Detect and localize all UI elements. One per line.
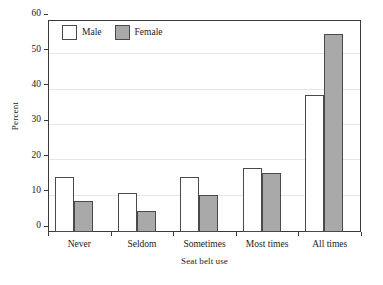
y-axis-tick: 50 <box>32 43 49 55</box>
bars-layer <box>48 20 361 232</box>
x-axis-title: Seat belt use <box>48 256 361 266</box>
bar-female <box>324 34 343 232</box>
bar-group <box>236 20 299 232</box>
x-axis-category-label: Never <box>68 237 91 251</box>
x-axis-tick-mark <box>111 232 112 236</box>
legend-item: Male <box>62 25 102 40</box>
y-axis-tick-label: 0 <box>36 221 44 231</box>
bar-chart: Percent 0102030405060 NeverSeldomSometim… <box>0 0 383 285</box>
y-axis-tick: 30 <box>32 114 49 126</box>
legend-swatch-female <box>115 25 130 40</box>
bar-group <box>173 20 236 232</box>
y-axis-tick-label: 10 <box>32 186 45 196</box>
x-axis-tick-mark <box>48 232 49 236</box>
y-axis-tick: 60 <box>32 8 49 20</box>
legend-label: Male <box>82 28 102 38</box>
legend-item: Female <box>115 25 163 40</box>
bar-group <box>111 20 174 232</box>
y-axis-tick-mark <box>44 14 48 15</box>
bar-male <box>118 193 137 232</box>
y-axis-tick-label: 20 <box>32 151 45 161</box>
bar-group <box>298 20 361 232</box>
legend-label: Female <box>135 28 163 38</box>
x-axis-category-label: Seldom <box>127 237 156 251</box>
x-axis-category-label: All times <box>312 237 347 251</box>
bar-male <box>180 177 199 232</box>
bar-male <box>243 168 262 232</box>
bar-male <box>305 95 324 232</box>
x-axis-tick-mark <box>173 232 174 236</box>
bar-female <box>137 211 156 232</box>
x-axis-category-labels: NeverSeldomSometimesMost timesAll times <box>48 237 361 253</box>
bar-female <box>199 195 218 232</box>
y-axis-tick-label: 30 <box>32 115 45 125</box>
y-axis-ticks: 0102030405060 <box>0 20 48 232</box>
x-axis-tick-mark <box>298 232 299 236</box>
y-axis-tick: 40 <box>32 79 49 91</box>
bar-group <box>48 20 111 232</box>
y-axis-tick: 20 <box>32 149 49 161</box>
bar-female <box>262 173 281 232</box>
y-axis-tick: 10 <box>32 185 49 197</box>
y-axis-tick-label: 60 <box>32 9 45 19</box>
x-axis-tick-mark <box>361 232 362 236</box>
y-axis-tick-label: 50 <box>32 45 45 55</box>
y-axis-tick: 0 <box>36 220 48 232</box>
bar-female <box>74 201 93 232</box>
x-axis-category-label: Most times <box>246 237 289 251</box>
x-axis-tick-mark <box>236 232 237 236</box>
y-axis-tick-label: 40 <box>32 80 45 90</box>
legend-swatch-male <box>62 25 77 40</box>
x-axis-category-label: Sometimes <box>183 237 225 251</box>
bar-male <box>55 177 74 232</box>
legend: MaleFemale <box>62 25 163 40</box>
